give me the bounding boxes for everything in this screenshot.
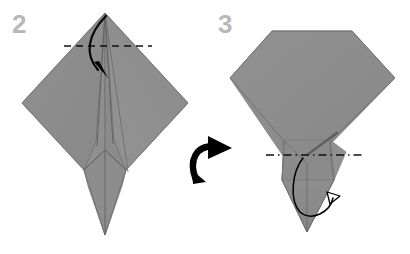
diagram-canvas: 2 (0, 0, 410, 254)
step-number-3: 3 (218, 9, 232, 39)
origami-diagram: 2 (0, 0, 410, 254)
step-number-2: 2 (12, 9, 26, 39)
